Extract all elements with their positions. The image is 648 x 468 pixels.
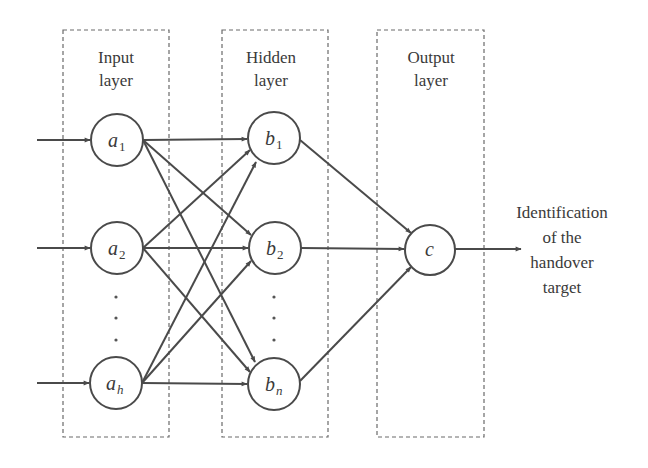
node-bn: bn (248, 358, 300, 410)
node-a1-sub: 1 (119, 139, 126, 154)
node-a1-base: a (108, 129, 118, 151)
node-b1: b1 (248, 112, 300, 164)
edge-ah-b1 (142, 162, 256, 383)
neural-network-diagram: Input layer Hidden layer Output layer (0, 0, 648, 468)
hidden-layer-title-line1: Hidden (246, 48, 297, 67)
node-ah-sub: h (117, 382, 124, 397)
node-bn-sub: n (276, 383, 283, 398)
node-a2: a2 (91, 222, 143, 274)
node-b1-sub: 1 (276, 137, 283, 152)
node-ah-base: a (106, 372, 116, 394)
edge-a1-bn (143, 140, 255, 362)
node-b2-sub: 2 (277, 247, 284, 262)
edge-a2-bn (143, 248, 250, 372)
input-layer-title-line2: layer (99, 71, 133, 90)
node-bn-base: b (265, 373, 275, 395)
node-c: c (405, 225, 455, 275)
hidden-ellipsis (272, 295, 275, 341)
edge-b2-c (301, 248, 404, 249)
edge-a2-b1 (143, 150, 250, 248)
diagram-svg: Input layer Hidden layer Output layer (0, 0, 648, 468)
node-a2-sub: 2 (119, 247, 126, 262)
node-a2-base: a (108, 237, 118, 259)
edge-a1-b1 (143, 139, 247, 140)
hidden-output-edges (300, 140, 411, 381)
node-b2-base: b (266, 237, 276, 259)
svg-text:c: c (425, 238, 434, 260)
output-label: Identification of the handover target (516, 203, 608, 297)
node-a1: a1 (91, 114, 143, 166)
input-hidden-edges (142, 139, 256, 384)
output-label-line1: Identification (516, 203, 608, 222)
node-b2: b2 (249, 222, 301, 274)
output-label-line3: handover (530, 253, 594, 272)
edge-b1-c (300, 140, 411, 233)
input-ellipsis (114, 295, 117, 341)
hidden-layer-title-line2: layer (254, 71, 288, 90)
input-layer-title-line1: Input (98, 48, 134, 67)
node-c-base: c (425, 238, 434, 260)
output-label-line2: of the (542, 228, 581, 247)
edge-a1-b2 (143, 140, 251, 235)
output-layer-title-line1: Output (407, 48, 455, 67)
output-label-line4: target (543, 278, 582, 297)
node-ah: ah (90, 357, 142, 409)
edge-ah-bn (142, 383, 247, 384)
node-b1-base: b (265, 127, 275, 149)
output-layer-title-line2: layer (414, 71, 448, 90)
edge-bn-c (300, 267, 411, 381)
